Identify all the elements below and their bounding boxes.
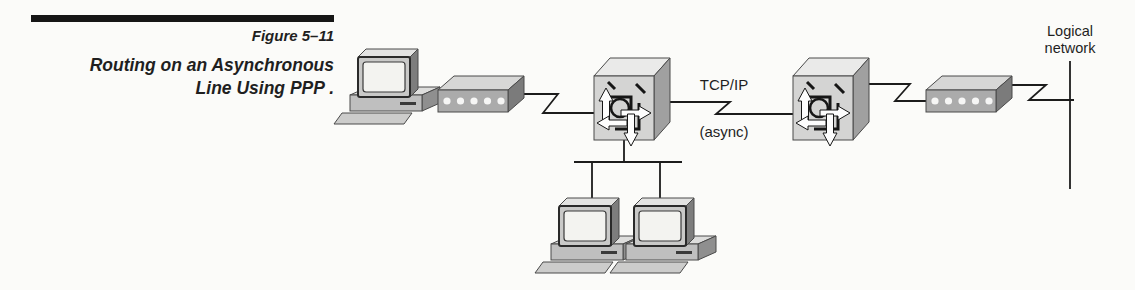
modem-left-icon [438,76,524,112]
network-diagram [0,0,1135,290]
logical-network-label: Logical network [1034,23,1106,56]
router-right-icon [793,58,869,146]
figure-page: Figure 5–11 Routing on an Asynchronous L… [0,0,1135,290]
link-label-async: (async) [688,123,760,140]
link-router-router-zigzag [656,102,802,114]
lan-bus [574,134,682,203]
logical-network-label-line-2: network [1034,40,1106,57]
logical-network-label-line-1: Logical [1034,23,1106,40]
router-left-icon [594,58,670,146]
modem-right-icon [926,76,1012,112]
link-label-tcpip: TCP/IP [690,76,758,93]
workstation-left-icon [334,49,440,124]
